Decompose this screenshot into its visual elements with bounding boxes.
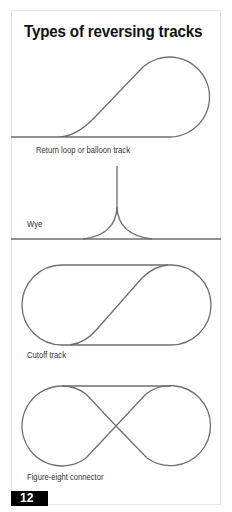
figure-eight-diagram [22, 386, 210, 466]
page-number-badge: 12 [11, 491, 48, 506]
track-diagrams [0, 0, 232, 512]
cutoff-caption: Cutoff track [27, 350, 66, 360]
wye-caption: Wye [27, 219, 42, 229]
return-loop-diagram [11, 57, 210, 137]
figure-eight-caption: Figure-eight connector [27, 472, 104, 482]
return-loop-caption: Return loop or balloon track [36, 145, 130, 155]
cutoff-diagram [22, 265, 211, 345]
wye-diagram [11, 166, 221, 239]
